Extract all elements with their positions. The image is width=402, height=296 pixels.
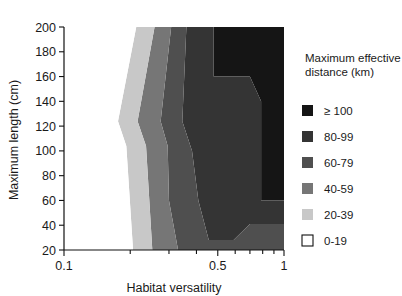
legend-title-line1: Maximum effective xyxy=(305,52,401,64)
y-tick-label: 20 xyxy=(42,244,56,258)
plot-bands xyxy=(64,27,284,250)
y-tick-label: 40 xyxy=(42,219,56,233)
x-tick-label: 1 xyxy=(281,259,288,273)
legend-swatch xyxy=(302,157,313,168)
y-tick-label: 60 xyxy=(42,194,56,208)
y-tick-label: 140 xyxy=(35,95,56,109)
y-tick-label: 120 xyxy=(35,120,56,134)
y-tick-label: 80 xyxy=(42,169,56,183)
x-tick-label: 0.1 xyxy=(55,259,72,273)
y-axis-title: Maximum length (cm) xyxy=(7,80,21,200)
legend-swatch xyxy=(302,235,313,246)
legend-title-line2: distance (km) xyxy=(305,66,374,78)
contour-chart: 20406080100120140160180200 0.10.51 Maxim… xyxy=(0,0,402,296)
legend-label: 0-19 xyxy=(324,235,347,247)
legend-label: ≥ 100 xyxy=(324,105,353,117)
legend-label: 80-99 xyxy=(324,131,353,143)
legend-swatch xyxy=(302,183,313,194)
y-tick-label: 200 xyxy=(35,21,56,35)
legend-label: 60-79 xyxy=(324,157,353,169)
legend-swatch xyxy=(302,105,313,116)
legend-swatch xyxy=(302,209,313,220)
y-tick-label: 100 xyxy=(35,144,56,158)
x-tick-label: 0.5 xyxy=(209,259,226,273)
x-axis-title: Habitat versatility xyxy=(126,281,222,295)
legend-swatch xyxy=(302,131,313,142)
legend-label: 20-39 xyxy=(324,209,353,221)
y-tick-label: 160 xyxy=(35,70,56,84)
y-tick-label: 180 xyxy=(35,45,56,59)
legend-label: 40-59 xyxy=(324,183,353,195)
